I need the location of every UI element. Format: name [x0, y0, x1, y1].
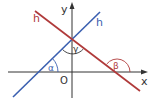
y-axis-label: y — [61, 3, 68, 16]
beta-label: β — [113, 61, 119, 71]
x-axis-label: x — [141, 75, 148, 88]
line-h — [35, 11, 140, 91]
x-axis-arrow-icon — [141, 70, 148, 75]
line-g-label: h — [96, 16, 103, 29]
x-axis — [8, 70, 148, 75]
gamma-label: γ — [73, 44, 79, 54]
alpha-label: α — [48, 63, 54, 73]
line-h-label: h — [33, 12, 40, 25]
y-axis-arrow-icon — [70, 2, 75, 9]
origin-label: O — [60, 75, 68, 86]
coordinate-diagram: y x O h h α β γ — [0, 0, 151, 104]
line-g — [13, 12, 100, 97]
